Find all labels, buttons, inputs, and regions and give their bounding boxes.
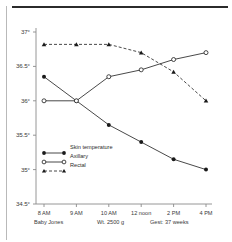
data-point <box>107 123 111 127</box>
data-point <box>204 51 208 55</box>
y-tick-label: 34.5° <box>8 200 30 207</box>
y-tick-label: 35.5° <box>8 131 30 138</box>
x-tick-label: 12 noon <box>131 210 151 216</box>
data-point <box>42 75 46 79</box>
chart-axes <box>33 28 212 207</box>
x-tick-label: 2 PM <box>167 210 180 216</box>
data-point <box>74 99 78 103</box>
legend-label-rectal: Rectal <box>70 162 86 168</box>
caption-gestation: Gest: 37 weeks <box>150 219 189 225</box>
caption-baby-name: Baby Jones <box>34 219 63 225</box>
x-tick-label: 9 AM <box>70 210 83 216</box>
data-point <box>139 140 143 144</box>
chart-legend: Skin temperature Axillary <box>41 142 113 169</box>
x-tick-label: 10 AM <box>101 210 117 216</box>
x-tick-label: 4 PM <box>199 210 212 216</box>
data-point <box>42 99 46 103</box>
data-point <box>172 157 176 161</box>
legend-item-axillary: Axillary <box>41 151 113 160</box>
legend-swatch-skin <box>41 143 67 151</box>
data-point <box>204 168 208 172</box>
legend-label-skin: Skin temperature <box>70 144 113 150</box>
figure-page: 34.5°35°35.5°36°36.5°37° 8 AM9 AM10 AM12… <box>0 0 232 242</box>
legend-swatch-axillary <box>41 152 67 160</box>
temperature-chart: 34.5°35°35.5°36°36.5°37° 8 AM9 AM10 AM12… <box>0 0 232 242</box>
data-point <box>139 68 143 72</box>
data-point <box>107 42 112 46</box>
chart-plot-area <box>0 0 232 242</box>
data-point <box>107 75 111 79</box>
y-tick-label: 35° <box>8 166 30 173</box>
caption-weight: Wt. 2500 g <box>97 219 124 225</box>
y-tick-label: 36° <box>8 97 30 104</box>
data-point <box>172 58 176 62</box>
legend-item-skin: Skin temperature <box>41 142 113 151</box>
legend-item-rectal: Rectal <box>41 160 113 169</box>
y-tick-label: 37° <box>8 28 30 35</box>
legend-swatch-rectal <box>41 161 67 169</box>
legend-label-axillary: Axillary <box>70 153 88 159</box>
y-tick-label: 36.5° <box>8 62 30 69</box>
data-point <box>171 70 176 74</box>
x-tick-label: 8 AM <box>38 210 51 216</box>
